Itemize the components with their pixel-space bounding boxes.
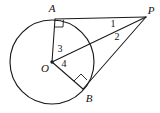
point-label-P: P	[147, 4, 155, 16]
geometry-figure: A B O P 1 2 3 4	[0, 0, 160, 113]
point-label-B: B	[86, 92, 93, 104]
segment-radius-OB	[52, 62, 83, 89]
angle-label-3: 3	[58, 43, 63, 54]
point-label-O: O	[41, 62, 49, 74]
segment-OP	[52, 17, 146, 62]
right-angle-at-B-icon	[74, 74, 87, 81]
geometry-canvas: A B O P 1 2 3 4	[0, 0, 160, 113]
center-point-dot	[50, 60, 53, 63]
angle-label-4: 4	[62, 58, 67, 69]
segment-tangent-AP	[55, 17, 146, 19]
angle-label-1: 1	[111, 18, 116, 29]
point-label-A: A	[48, 2, 56, 14]
segment-radius-OA	[52, 19, 55, 62]
angle-label-2: 2	[115, 31, 120, 42]
